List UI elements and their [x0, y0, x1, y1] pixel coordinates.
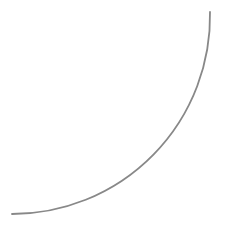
arc-drawing: [0, 0, 227, 229]
quarter-circle-arc: [12, 12, 210, 214]
diagram-canvas: [0, 0, 227, 229]
